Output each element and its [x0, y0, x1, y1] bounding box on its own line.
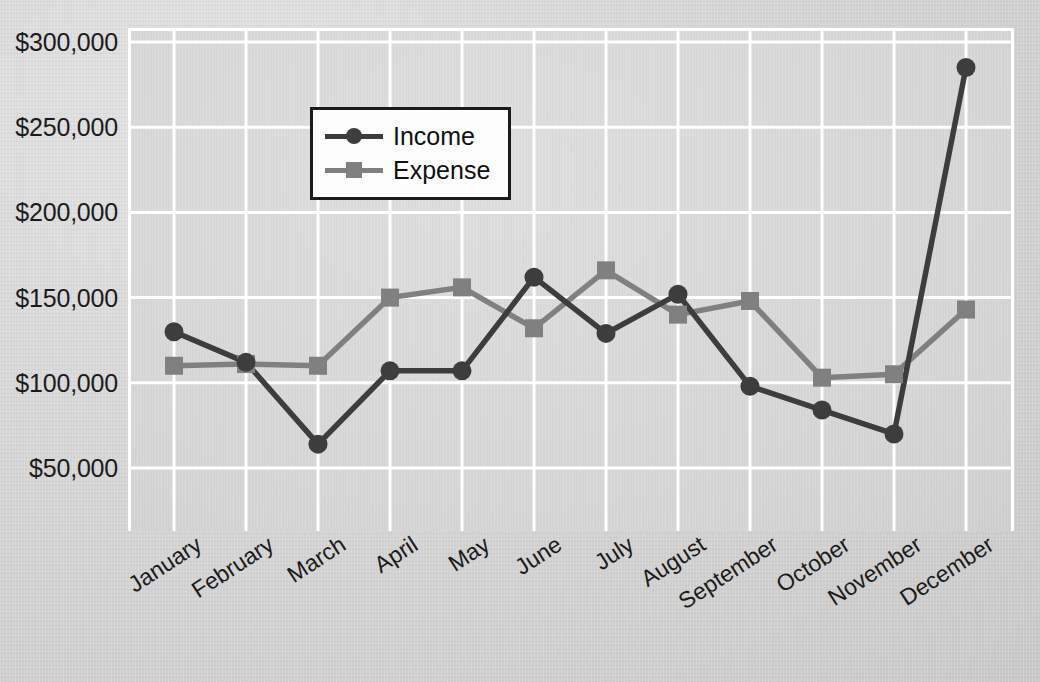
data-point-income-november[interactable] — [885, 424, 904, 443]
x-tick-label: September — [768, 531, 783, 554]
data-point-income-february[interactable] — [237, 353, 256, 372]
data-point-expense-november[interactable] — [885, 365, 903, 383]
data-point-expense-march[interactable] — [309, 357, 327, 375]
chart-legend: Income Expense — [310, 107, 511, 200]
data-point-income-october[interactable] — [813, 401, 832, 420]
x-tick-label-text: June — [510, 531, 567, 581]
y-tick-label: $200,000 — [15, 198, 118, 227]
y-tick-label: $150,000 — [15, 283, 118, 312]
x-tick-label-text: April — [369, 531, 422, 579]
data-point-expense-may[interactable] — [453, 278, 471, 296]
x-tick-label: April — [408, 531, 423, 554]
data-point-income-june[interactable] — [525, 268, 544, 287]
legend-label-income: Income — [393, 124, 475, 149]
x-tick-label-text: May — [444, 531, 495, 577]
y-tick-label: $250,000 — [15, 113, 118, 142]
data-point-expense-june[interactable] — [525, 319, 543, 337]
x-tick-label: February — [264, 531, 279, 554]
x-tick-label: June — [552, 531, 567, 554]
series-line-expense — [174, 270, 966, 377]
x-tick-label: November — [912, 531, 927, 554]
data-point-income-august[interactable] — [669, 285, 688, 304]
data-point-income-march[interactable] — [309, 435, 328, 454]
line-chart-svg — [128, 28, 1014, 531]
x-tick-label: January — [192, 531, 207, 554]
data-point-income-april[interactable] — [381, 361, 400, 380]
series-line-income — [174, 68, 966, 445]
x-tick-label: May — [480, 531, 495, 554]
y-tick-label: $300,000 — [15, 28, 118, 57]
data-point-income-december[interactable] — [957, 58, 976, 77]
x-axis-tick-labels: JanuaryFebruaryMarchAprilMayJuneJulyAugu… — [128, 531, 1014, 681]
x-tick-label: August — [696, 531, 711, 554]
legend-item-expense[interactable]: Expense — [325, 153, 490, 187]
data-point-income-may[interactable] — [453, 361, 472, 380]
x-tick-label-text: March — [282, 531, 350, 588]
legend-item-income[interactable]: Income — [325, 119, 490, 153]
y-axis-tick-labels: $300,000$250,000$200,000$150,000$100,000… — [0, 28, 118, 531]
data-point-expense-october[interactable] — [813, 369, 831, 387]
x-tick-label-text: February — [187, 531, 279, 604]
chart-page: $300,000$250,000$200,000$150,000$100,000… — [0, 0, 1040, 682]
x-tick-label-text: July — [590, 531, 639, 576]
legend-label-expense: Expense — [393, 158, 490, 183]
y-tick-label: $100,000 — [15, 368, 118, 397]
legend-swatch-income-icon — [325, 125, 383, 147]
data-point-expense-december[interactable] — [957, 301, 975, 319]
data-point-expense-january[interactable] — [165, 357, 183, 375]
y-tick-label: $50,000 — [29, 454, 118, 483]
x-tick-label: March — [336, 531, 351, 554]
x-tick-label: December — [984, 531, 999, 554]
data-point-expense-april[interactable] — [381, 289, 399, 307]
legend-swatch-expense-icon — [325, 159, 383, 181]
x-tick-label: October — [840, 531, 855, 554]
data-point-expense-august[interactable] — [669, 306, 687, 324]
plot-area: Income Expense — [128, 28, 1014, 531]
data-point-income-july[interactable] — [597, 324, 616, 343]
data-point-expense-september[interactable] — [741, 292, 759, 310]
data-point-income-january[interactable] — [165, 322, 184, 341]
data-point-expense-july[interactable] — [597, 261, 615, 279]
data-point-income-september[interactable] — [741, 377, 760, 396]
x-tick-label: July — [624, 531, 639, 554]
